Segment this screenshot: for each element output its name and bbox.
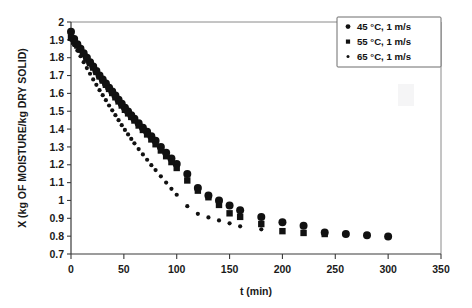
y-tick-label: 1.8 bbox=[49, 51, 64, 63]
y-tick-label: 1.7 bbox=[49, 69, 64, 81]
data-point bbox=[137, 147, 141, 151]
data-point bbox=[258, 221, 264, 227]
data-point bbox=[174, 165, 180, 171]
y-axis-title: X (kg OF MOISTURE/kg DRY SOLID) bbox=[16, 48, 28, 228]
data-point bbox=[195, 187, 201, 193]
y-tick-label: 1.5 bbox=[49, 105, 64, 117]
data-point bbox=[141, 152, 145, 156]
data-point bbox=[101, 93, 105, 97]
data-point bbox=[88, 72, 92, 76]
data-point bbox=[169, 187, 173, 191]
data-point bbox=[278, 218, 286, 226]
data-point bbox=[145, 158, 149, 162]
data-point bbox=[97, 88, 101, 92]
data-point bbox=[85, 66, 89, 70]
data-point bbox=[75, 48, 79, 52]
y-tick-label: 1.9 bbox=[49, 34, 64, 46]
y-tick-label: 1.2 bbox=[49, 158, 64, 170]
data-point bbox=[236, 206, 244, 214]
data-point bbox=[227, 221, 231, 225]
data-point bbox=[113, 113, 117, 117]
y-tick-label: 0.8 bbox=[49, 230, 64, 242]
y-tick-label: 0.9 bbox=[49, 212, 64, 224]
data-point bbox=[206, 215, 210, 219]
data-point bbox=[183, 170, 191, 178]
data-point bbox=[129, 137, 133, 141]
x-tick-label: 150 bbox=[221, 263, 239, 275]
y-tick-label: 1.6 bbox=[49, 87, 64, 99]
x-tick-label: 250 bbox=[327, 263, 345, 275]
data-point bbox=[168, 159, 174, 165]
data-point bbox=[104, 98, 108, 102]
x-tick-label: 300 bbox=[379, 263, 397, 275]
data-point bbox=[238, 224, 242, 228]
legend-marker-circle bbox=[346, 24, 351, 29]
y-tick-label: 1.3 bbox=[49, 141, 64, 153]
data-point bbox=[175, 193, 179, 197]
data-point bbox=[107, 103, 111, 107]
data-point bbox=[237, 214, 243, 220]
x-tick-label: 0 bbox=[68, 263, 74, 275]
data-point bbox=[126, 132, 130, 136]
legend-label: 45 °C, 1 m/s bbox=[357, 21, 411, 32]
data-point bbox=[185, 204, 189, 208]
data-point bbox=[216, 202, 222, 208]
data-point bbox=[322, 231, 328, 237]
legend-label: 65 °C, 1 m/s bbox=[357, 51, 411, 62]
data-point bbox=[226, 210, 232, 216]
data-point bbox=[164, 181, 168, 185]
data-point bbox=[149, 163, 153, 167]
data-point bbox=[78, 54, 82, 58]
data-point bbox=[259, 227, 263, 231]
data-point bbox=[217, 218, 221, 222]
data-point bbox=[94, 83, 98, 87]
data-point bbox=[82, 60, 86, 64]
data-point bbox=[342, 230, 350, 238]
data-point bbox=[132, 141, 136, 145]
data-point bbox=[120, 123, 124, 127]
data-point bbox=[196, 212, 200, 216]
legend-marker-square bbox=[346, 40, 350, 44]
data-point bbox=[300, 230, 306, 236]
data-point bbox=[159, 174, 163, 178]
x-tick-label: 200 bbox=[274, 263, 292, 275]
data-point bbox=[152, 141, 158, 147]
data-point bbox=[384, 233, 392, 241]
data-point bbox=[116, 118, 120, 122]
data-point bbox=[153, 168, 157, 172]
data-point bbox=[300, 222, 308, 230]
data-point bbox=[91, 77, 95, 81]
chart-legend: 45 °C, 1 m/s55 °C, 1 m/s65 °C, 1 m/s bbox=[337, 17, 441, 67]
data-point bbox=[110, 108, 114, 112]
legend-marker-dot bbox=[347, 55, 350, 58]
moisture-vs-time-scatter-chart: 0.70.80.911.11.21.31.41.51.61.71.81.92 0… bbox=[0, 0, 472, 308]
data-point bbox=[158, 147, 164, 153]
y-tick-label: 1.1 bbox=[49, 176, 64, 188]
x-tick-label: 50 bbox=[118, 263, 130, 275]
data-point bbox=[72, 43, 76, 47]
y-tick-label: 1 bbox=[58, 194, 64, 206]
data-point bbox=[163, 153, 169, 159]
y-tick-label: 0.7 bbox=[49, 248, 64, 260]
legend-label: 55 °C, 1 m/s bbox=[357, 36, 411, 47]
data-point bbox=[69, 38, 73, 42]
data-point bbox=[205, 194, 211, 200]
data-point bbox=[363, 231, 371, 239]
scan-watermark bbox=[398, 84, 414, 106]
x-tick-label: 350 bbox=[432, 263, 450, 275]
chart-figure: 0.70.80.911.11.21.31.41.51.61.71.81.92 0… bbox=[0, 0, 472, 308]
data-point bbox=[257, 213, 265, 221]
data-point bbox=[184, 177, 190, 183]
y-tick-label: 1.4 bbox=[49, 123, 64, 135]
x-tick-label: 100 bbox=[168, 263, 186, 275]
data-point bbox=[279, 228, 285, 234]
data-point bbox=[226, 201, 234, 209]
data-point bbox=[123, 128, 127, 132]
x-axis-title: t (min) bbox=[240, 285, 272, 297]
y-tick-label: 2 bbox=[58, 16, 64, 28]
